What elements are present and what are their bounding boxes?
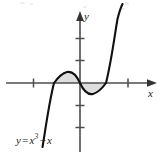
y-axis-label: y	[84, 11, 89, 22]
x-axis-label: x	[148, 88, 153, 99]
curve-equation-label: y=x3−x	[16, 133, 52, 146]
x-axis-arrowhead	[147, 79, 157, 87]
equation-exponent: 3	[35, 132, 39, 141]
y-axis-arrowhead	[76, 11, 84, 21]
equation-equals: =	[21, 134, 29, 146]
cubic-function-figure: y x y=x3−x	[0, 0, 161, 158]
equation-term: x	[47, 134, 52, 146]
cubic-curve	[43, 4, 123, 147]
equation-minus: −	[39, 134, 47, 146]
